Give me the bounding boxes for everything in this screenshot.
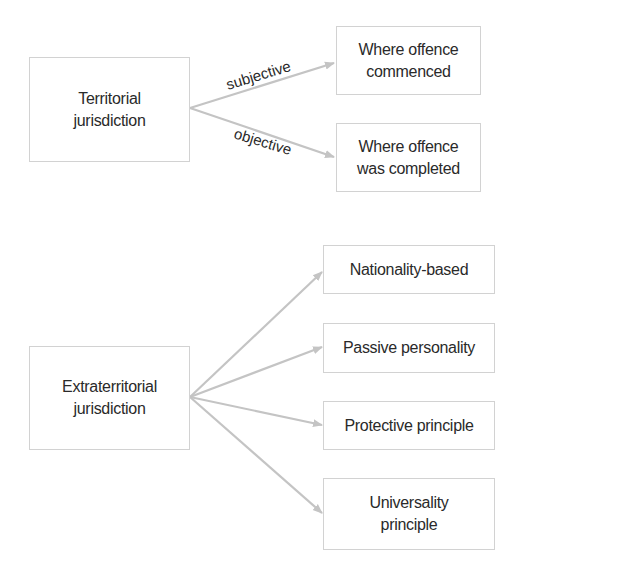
nationality-based-label: Nationality-based bbox=[350, 259, 469, 281]
passive-personality-label: Passive personality bbox=[343, 337, 475, 359]
territorial-jurisdiction-label: Territorial jurisdiction bbox=[74, 88, 146, 131]
arrow-protective bbox=[190, 397, 322, 425]
offence-completed-node: Where offence was completed bbox=[336, 123, 481, 192]
offence-commenced-node: Where offence commenced bbox=[336, 26, 481, 95]
arrow-universality bbox=[190, 397, 322, 513]
offence-commenced-label: Where offence commenced bbox=[359, 39, 459, 82]
universality-principle-node: Universality principle bbox=[323, 478, 495, 550]
arrow-nationality bbox=[190, 272, 322, 397]
protective-principle-label: Protective principle bbox=[344, 415, 473, 437]
edge-label-objective: objective bbox=[232, 125, 294, 159]
extraterritorial-jurisdiction-label: Extraterritorial jurisdiction bbox=[62, 376, 157, 419]
protective-principle-node: Protective principle bbox=[323, 401, 495, 450]
extraterritorial-jurisdiction-node: Extraterritorial jurisdiction bbox=[29, 346, 190, 450]
universality-principle-label: Universality principle bbox=[369, 492, 448, 535]
offence-completed-label: Where offence was completed bbox=[357, 136, 460, 179]
territorial-jurisdiction-node: Territorial jurisdiction bbox=[29, 57, 190, 162]
passive-personality-node: Passive personality bbox=[323, 323, 495, 373]
nationality-based-node: Nationality-based bbox=[323, 245, 495, 294]
arrow-passive bbox=[190, 347, 322, 397]
